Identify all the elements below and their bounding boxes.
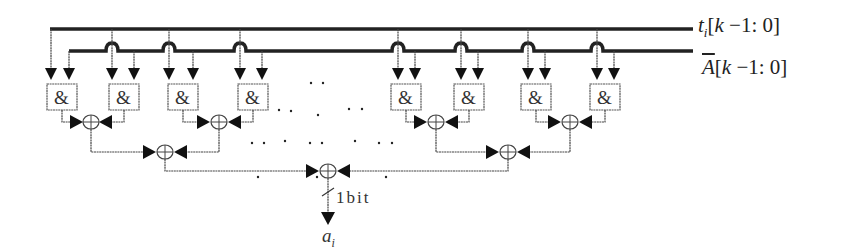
a-output-var: a [322, 225, 332, 246]
a-output-subscript: i [332, 236, 335, 250]
and-gate: & [163, 29, 199, 110]
output-arrow-icon [321, 212, 335, 225]
and-gate: & [454, 29, 484, 110]
and-gate: & [106, 29, 140, 110]
bus-a-bar [69, 43, 693, 51]
svg-text:&: & [175, 87, 190, 108]
output-width-label: 1bit [336, 188, 370, 208]
bus-label-t-i: ti[k −1: 0] [698, 13, 780, 41]
and-gate: & [391, 29, 421, 110]
and-gate: & [590, 29, 620, 110]
and-gates: & & & & [45, 29, 620, 110]
and-gate: & [234, 29, 268, 110]
svg-text:&: & [461, 87, 476, 108]
output-label-a-i: ai [322, 225, 335, 251]
svg-text:&: & [528, 87, 543, 108]
ellipsis-dots [251, 82, 393, 178]
svg-text:&: & [245, 87, 260, 108]
xor-level-2 [91, 129, 570, 159]
a-range: −1: 0] [731, 55, 787, 79]
and-gate: & [521, 29, 551, 110]
svg-text:&: & [54, 87, 69, 108]
xor-level-1 [62, 110, 605, 129]
svg-text:&: & [116, 87, 131, 108]
svg-text:&: & [597, 87, 612, 108]
a-var: A [702, 55, 715, 79]
and-gate: & [45, 29, 77, 110]
bus-label-a-bar: A[k −1: 0] [702, 55, 787, 80]
t-range: −1: 0] [724, 13, 780, 37]
svg-text:&: & [398, 87, 413, 108]
